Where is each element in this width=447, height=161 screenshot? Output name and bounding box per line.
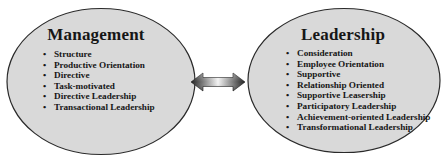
leadership-group: Leadership Consideration Employee Orient… bbox=[283, 25, 443, 133]
list-item: Productive Orientation bbox=[43, 60, 190, 71]
management-title: Management bbox=[43, 25, 149, 45]
list-item: Task-motivated bbox=[43, 81, 190, 92]
list-item: Transactional Leadership bbox=[43, 102, 190, 113]
list-item: Transformational Leadership bbox=[286, 122, 443, 133]
list-item: Directive bbox=[43, 70, 190, 81]
leadership-list: Consideration Employee Orientation Suppo… bbox=[286, 48, 443, 133]
list-item: Participatory Leadership bbox=[286, 101, 443, 112]
list-item: Structure bbox=[43, 49, 190, 60]
management-list: Structure Productive Orientation Directi… bbox=[43, 49, 190, 113]
list-item: Employee Orientation bbox=[286, 59, 443, 70]
double-arrow-icon bbox=[191, 73, 245, 91]
list-item: Relationship Oriented bbox=[286, 80, 443, 91]
management-group: Management Structure Productive Orientat… bbox=[40, 25, 190, 113]
list-item: Supportive Leasership bbox=[286, 90, 443, 101]
list-item: Directive Leadership bbox=[43, 91, 190, 102]
list-item: Consideration bbox=[286, 48, 443, 59]
leadership-title: Leadership bbox=[279, 25, 407, 45]
list-item: Supportive bbox=[286, 69, 443, 80]
list-item: Achievement-oriented Leadership bbox=[286, 112, 443, 123]
